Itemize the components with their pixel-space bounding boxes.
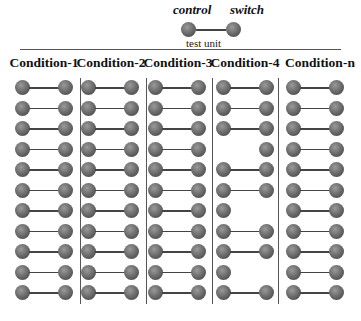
link-line [196,29,226,31]
control-bead-icon [216,101,231,116]
link-line [230,169,260,171]
control-bead-icon [148,244,163,259]
switch-bead-icon [58,121,73,136]
link-line [230,87,260,89]
switch-bead-icon [58,142,73,157]
switch-bead-icon [124,285,139,300]
switch-bead-icon [259,80,274,95]
link-line [230,231,260,233]
link-line [162,87,192,89]
link-line [29,210,59,212]
link-line [95,272,125,274]
control-bead-icon [81,203,96,218]
link-line [29,292,59,294]
control-bead-icon [148,142,163,157]
link-line [95,128,125,130]
switch-bead-icon [58,203,73,218]
switch-label: switch [230,2,264,18]
switch-bead-icon [124,203,139,218]
link-line [230,190,260,192]
switch-bead-icon [329,142,344,157]
link-line [162,231,192,233]
link-line [162,210,192,212]
switch-bead-icon [259,142,274,157]
switch-bead-icon [58,162,73,177]
switch-bead-icon [191,142,206,157]
condition-title: Condition-n [280,55,360,71]
link-line [230,292,260,294]
link-line [300,108,330,110]
link-line [162,272,192,274]
switch-bead-icon [124,80,139,95]
switch-bead-icon [191,121,206,136]
link-line [162,190,192,192]
switch-bead-icon [124,265,139,280]
link-line [162,251,192,253]
control-bead-icon [148,101,163,116]
control-bead-icon [15,80,30,95]
switch-bead-icon [191,224,206,239]
switch-bead-icon [58,244,73,259]
column-divider [80,78,81,304]
switch-bead-icon [124,224,139,239]
link-line [95,190,125,192]
control-bead-icon [286,101,301,116]
control-bead-icon [286,121,301,136]
switch-bead-icon [124,101,139,116]
control-bead-icon [216,183,231,198]
control-bead-icon [15,142,30,157]
switch-bead-icon [191,183,206,198]
link-line [95,169,125,171]
control-bead-icon [216,203,231,218]
control-bead-icon [216,121,231,136]
switch-bead-icon [124,244,139,259]
switch-bead-icon [191,162,206,177]
column-divider [212,78,213,304]
control-bead-icon [81,121,96,136]
link-line [95,108,125,110]
link-line [162,292,192,294]
control-bead-icon [148,285,163,300]
switch-bead-icon [329,224,344,239]
switch-bead-icon [329,80,344,95]
switch-bead-icon [259,285,274,300]
link-line [95,149,125,151]
control-bead-icon [181,22,196,37]
link-line [300,169,330,171]
link-line [95,251,125,253]
column-divider [146,78,147,304]
control-bead-icon [15,203,30,218]
control-bead-icon [148,265,163,280]
link-line [300,210,330,212]
control-bead-icon [81,162,96,177]
switch-bead-icon [58,80,73,95]
link-line [95,231,125,233]
switch-bead-icon [259,224,274,239]
test-unit-label: test unit [186,37,221,49]
control-bead-icon [81,80,96,95]
switch-bead-icon [58,224,73,239]
control-bead-icon [15,224,30,239]
switch-bead-icon [58,265,73,280]
control-bead-icon [15,121,30,136]
switch-bead-icon [259,101,274,116]
control-bead-icon [286,285,301,300]
link-line [95,210,125,212]
link-line [29,231,59,233]
link-line [230,128,260,130]
switch-bead-icon [259,121,274,136]
link-line [300,272,330,274]
link-line [300,231,330,233]
control-bead-icon [15,244,30,259]
link-line [162,169,192,171]
link-line [300,292,330,294]
link-line [29,149,59,151]
link-line [29,128,59,130]
control-bead-icon [15,162,30,177]
control-bead-icon [15,285,30,300]
condition-title: Condition-4 [205,55,285,71]
control-bead-icon [286,162,301,177]
switch-bead-icon [329,203,344,218]
switch-bead-icon [329,265,344,280]
switch-bead-icon [329,183,344,198]
